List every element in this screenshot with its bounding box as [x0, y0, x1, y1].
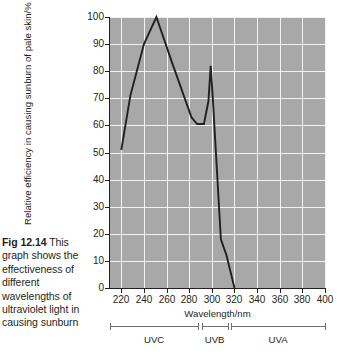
y-axis-tick-labels: 0102030405060708090100 [78, 0, 104, 300]
band-label-uvb: UVB [193, 335, 237, 345]
band-end-tick [198, 323, 199, 330]
y-axis-tick-label: 70 [82, 93, 104, 103]
x-axis-tick [212, 289, 213, 293]
y-axis-tick [105, 288, 109, 289]
band-end-tick [325, 323, 326, 330]
x-axis-tick [280, 289, 281, 293]
x-axis-tick [257, 289, 258, 293]
y-axis-tick-label: 20 [82, 229, 104, 239]
plot-area [110, 17, 325, 288]
data-series-line [121, 17, 234, 288]
y-axis-tick [105, 71, 109, 72]
data-line-svg [110, 17, 325, 288]
x-axis-tick [144, 289, 145, 293]
y-axis-line [109, 17, 110, 289]
x-axis-line [109, 288, 326, 289]
y-axis-tick-label: 10 [82, 256, 104, 266]
figure-caption-text: This graph shows the effectiveness of di… [2, 236, 79, 328]
band-end-tick [231, 323, 232, 330]
x-axis-tick [234, 289, 235, 293]
y-axis-tick [105, 261, 109, 262]
band-end-tick [228, 323, 229, 330]
x-axis-tick [302, 289, 303, 293]
band-end-tick [110, 323, 111, 330]
y-axis-tick-label: 40 [82, 175, 104, 185]
figure-number: Fig 12.14 [2, 236, 47, 248]
y-axis-tick-label: 50 [82, 148, 104, 158]
x-axis-tick-labels: 220240260280300320340360380400 [0, 294, 337, 308]
x-axis-title: Wavelength/nm [110, 309, 325, 319]
y-axis-tick-label: 30 [82, 202, 104, 212]
y-axis-tick-label: 0 [82, 283, 104, 293]
x-axis-tick [325, 289, 326, 293]
band-label-uvc: UVC [132, 335, 176, 345]
x-axis-tick [189, 289, 190, 293]
band-label-uva: UVA [256, 335, 300, 345]
y-axis-title: Relative efficiency in causing sunburn o… [23, 45, 33, 225]
y-axis-tick [105, 207, 109, 208]
gridline-vertical [325, 17, 326, 288]
y-axis-tick-label: 90 [82, 39, 104, 49]
y-axis-tick-label: 80 [82, 66, 104, 76]
x-axis-tick [167, 289, 168, 293]
y-axis-tick [105, 234, 109, 235]
y-axis-tick [105, 98, 109, 99]
x-axis-tick-label: 400 [312, 294, 337, 305]
band-end-tick [202, 323, 203, 330]
band-rule-uva [231, 326, 325, 327]
y-axis-tick [105, 125, 109, 126]
y-axis-tick [105, 17, 109, 18]
x-axis-tick [121, 289, 122, 293]
band-rule-uvc [110, 326, 198, 327]
y-axis-tick [105, 44, 109, 45]
uv-band-ruler: UVCUVBUVA [0, 322, 337, 354]
y-axis-tick [105, 153, 109, 154]
y-axis-tick [105, 180, 109, 181]
y-axis-tick-label: 100 [82, 12, 104, 22]
figure-container: Fig 12.14 This graph shows the effective… [0, 0, 337, 354]
band-rule-uvb [202, 326, 228, 327]
y-axis-tick-label: 60 [82, 120, 104, 130]
